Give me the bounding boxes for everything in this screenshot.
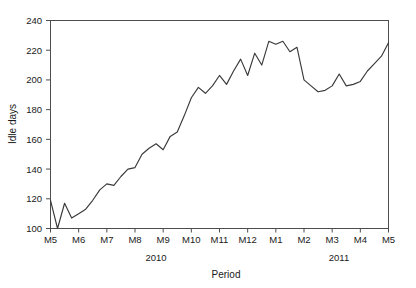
x-tick-label: M12 xyxy=(238,234,256,245)
y-tick-label: 100 xyxy=(26,223,42,234)
y-tick-label: 220 xyxy=(26,45,42,56)
y-tick-label: 200 xyxy=(26,74,42,85)
y-tick-label: 120 xyxy=(26,193,42,204)
group-label-2011: 2011 xyxy=(329,252,349,263)
x-tick-marks xyxy=(51,229,389,233)
x-tick-label: M10 xyxy=(182,234,200,245)
x-tick-label: M7 xyxy=(100,234,113,245)
x-tick-label: M8 xyxy=(128,234,141,245)
y-axis-title: Idle days xyxy=(7,104,18,144)
line-chart: Idle days 100120140160180200220240 M5M6M… xyxy=(0,0,416,288)
y-tick-label: 140 xyxy=(26,164,42,175)
data-series-idle-days xyxy=(51,41,389,228)
x-tick-label: M2 xyxy=(297,234,310,245)
y-tick-label: 180 xyxy=(26,104,42,115)
plot-frame xyxy=(51,21,389,229)
y-tick-labels: 100120140160180200220240 xyxy=(26,15,42,234)
x-tick-label: M3 xyxy=(326,234,339,245)
x-tick-label: M5 xyxy=(382,234,395,245)
y-tick-label: 160 xyxy=(26,134,42,145)
x-tick-label: M6 xyxy=(72,234,85,245)
chart-figure: Idle days 100120140160180200220240 M5M6M… xyxy=(0,0,416,288)
x-tick-label: M9 xyxy=(157,234,170,245)
x-tick-label: M1 xyxy=(269,234,282,245)
x-tick-labels: M5M6M7M8M9M10M11M12M1M2M3M4M5 xyxy=(44,234,395,245)
y-tick-marks xyxy=(46,21,51,229)
x-tick-label: M4 xyxy=(354,234,367,245)
x-tick-label: M11 xyxy=(211,234,229,245)
y-tick-label: 240 xyxy=(26,15,42,26)
group-label-2010: 2010 xyxy=(145,252,166,263)
x-axis-title: Period xyxy=(212,269,241,280)
x-tick-label: M5 xyxy=(44,234,57,245)
